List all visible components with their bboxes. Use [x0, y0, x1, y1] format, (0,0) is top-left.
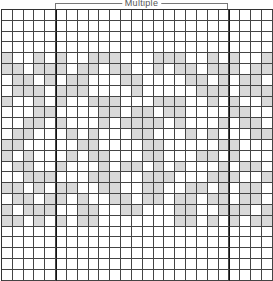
grid-cell [121, 64, 132, 75]
grid-cell [132, 21, 143, 32]
grid-cell [143, 227, 154, 238]
grid-cell [24, 183, 35, 194]
grid-cell [251, 216, 262, 227]
grid-cell [208, 248, 219, 259]
grid-cell [2, 194, 13, 205]
grid-cell [56, 248, 67, 259]
grid-cell [2, 205, 13, 216]
grid-cell [154, 75, 165, 86]
grid-cell [45, 129, 56, 140]
grid-cell [197, 162, 208, 173]
grid-cell [132, 118, 143, 129]
grid-cell [89, 21, 100, 32]
grid-cell [89, 64, 100, 75]
grid-cell [175, 64, 186, 75]
grid-cell [251, 107, 262, 118]
grid-cell [229, 270, 240, 281]
grid-cell [240, 140, 251, 151]
grid-cell [34, 237, 45, 248]
grid-cell [99, 42, 110, 53]
grid-cell [56, 107, 67, 118]
grid-cell [154, 227, 165, 238]
grid-cell [186, 259, 197, 270]
grid-cell [13, 86, 24, 97]
grid-cell [219, 64, 230, 75]
grid-cell [99, 10, 110, 21]
grid-cell [2, 151, 13, 162]
grid-cell [45, 248, 56, 259]
grid-cell [143, 129, 154, 140]
grid-cell [240, 129, 251, 140]
grid-cell [89, 53, 100, 64]
grid-cell [186, 151, 197, 162]
grid-cell [132, 183, 143, 194]
grid-cell [110, 86, 121, 97]
grid-cell [110, 21, 121, 32]
grid-cell [99, 183, 110, 194]
grid-cell [132, 227, 143, 238]
grid-cell [2, 97, 13, 108]
grid-cell [99, 194, 110, 205]
grid-cell [240, 118, 251, 129]
grid-cell [110, 140, 121, 151]
grid-cell [24, 162, 35, 173]
grid-cell [251, 183, 262, 194]
grid-cell [34, 64, 45, 75]
grid-cell [67, 75, 78, 86]
grid-cell [67, 227, 78, 238]
grid-cell [67, 53, 78, 64]
grid-cell [229, 140, 240, 151]
grid-cell [121, 194, 132, 205]
grid-cell [89, 227, 100, 238]
grid-cell [99, 205, 110, 216]
grid-cell [229, 237, 240, 248]
grid-cell [2, 216, 13, 227]
grid-cell [24, 75, 35, 86]
grid-cell [67, 259, 78, 270]
grid-cell [143, 32, 154, 43]
grid-cell [56, 97, 67, 108]
grid-cell [99, 248, 110, 259]
grid-cell [154, 86, 165, 97]
grid-cell [56, 183, 67, 194]
grid-cell [110, 118, 121, 129]
grid-cell [154, 216, 165, 227]
grid-cell [164, 205, 175, 216]
grid-cell [99, 227, 110, 238]
grid-cell [99, 64, 110, 75]
grid-cell [219, 21, 230, 32]
grid-cell [2, 248, 13, 259]
grid-cell [240, 21, 251, 32]
grid-cell [13, 140, 24, 151]
grid-cell [13, 53, 24, 64]
grid-cell [45, 32, 56, 43]
grid-cell [251, 42, 262, 53]
grid-cell [99, 162, 110, 173]
grid-cell [186, 53, 197, 64]
grid-cell [262, 172, 273, 183]
grid-cell [45, 205, 56, 216]
grid-cell [262, 205, 273, 216]
grid-cell [197, 140, 208, 151]
grid-cell [164, 118, 175, 129]
grid-cell [89, 270, 100, 281]
grid-cell [99, 118, 110, 129]
grid-cell [132, 248, 143, 259]
grid-cell [197, 259, 208, 270]
grid-cell [45, 10, 56, 21]
grid-cell [132, 10, 143, 21]
grid-cell [121, 118, 132, 129]
grid-cell [56, 194, 67, 205]
grid-cell [154, 140, 165, 151]
grid-cell [229, 32, 240, 43]
grid-cell [2, 107, 13, 118]
grid-cell [56, 75, 67, 86]
grid-cell [56, 86, 67, 97]
grid-cell [154, 237, 165, 248]
grid-cell [175, 151, 186, 162]
grid-cell [186, 129, 197, 140]
grid-cell [143, 64, 154, 75]
grid-cell [56, 21, 67, 32]
grid-cell [251, 237, 262, 248]
grid-cell [175, 227, 186, 238]
